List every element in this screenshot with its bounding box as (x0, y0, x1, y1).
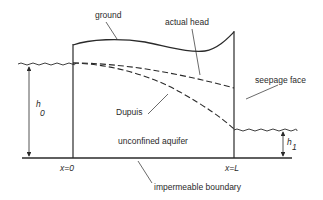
right-water-level (234, 129, 297, 131)
left-water-level (18, 63, 76, 65)
h1-subscript: 1 (292, 142, 297, 152)
seepage-face-label: seepage face (255, 75, 306, 85)
dupuis-leader (148, 94, 168, 114)
seepage-face-leader (246, 85, 278, 99)
dupuis-curve (73, 63, 234, 129)
impermeable-boundary-leader (138, 161, 152, 183)
actual-head-curve (73, 63, 234, 88)
actual-head-label: actual head (165, 17, 209, 27)
impermeable-boundary-label: impermeable boundary (154, 182, 242, 192)
aquifer-diagram: ground actual head seepage face Dupuis u… (0, 0, 323, 200)
h0-subscript: 0 (40, 108, 45, 118)
x0-label: x=0 (59, 163, 74, 173)
ground-label: ground (95, 10, 122, 20)
dupuis-label: Dupuis (116, 107, 142, 117)
ground-curve (73, 32, 234, 51)
unconfined-aquifer-label: unconfined aquifer (118, 136, 188, 146)
ground-leader (106, 22, 117, 39)
xL-label: x=L (224, 163, 239, 173)
